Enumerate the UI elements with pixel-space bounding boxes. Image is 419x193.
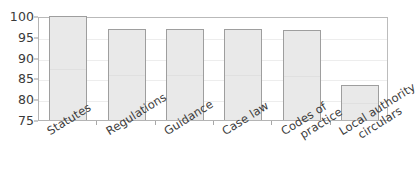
chart-title-remnant (0, 0, 397, 6)
y-tick-label: 90 (0, 53, 34, 65)
y-tick-label: 95 (0, 32, 34, 44)
x-axis-labels: StatutesRegulationsGuidanceCase lawCodes… (0, 121, 397, 193)
y-tick-label: 100 (0, 11, 34, 23)
y-tick-label: 80 (0, 94, 34, 106)
y-tick-label: 85 (0, 73, 34, 85)
